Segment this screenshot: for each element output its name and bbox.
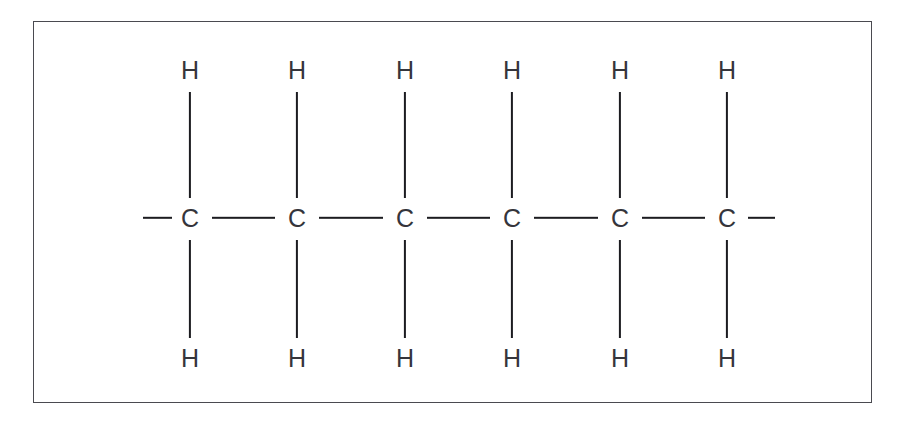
hydrogen-label-top-5: H: [611, 58, 629, 83]
hydrogen-label-top-2: H: [288, 58, 306, 83]
bond-vertical-bottom-3: [404, 240, 406, 338]
left-continuation-bond: [143, 217, 172, 219]
hydrogen-label-top-3: H: [396, 58, 414, 83]
hydrogen-label-bottom-2: H: [288, 346, 306, 371]
bond-vertical-bottom-6: [726, 240, 728, 338]
bond-vertical-top-2: [296, 92, 298, 198]
diagram-canvas: H H H H H H C C C C C C H H H H H H: [0, 0, 902, 423]
hydrogen-label-top-6: H: [718, 58, 736, 83]
bond-vertical-top-4: [511, 92, 513, 198]
bond-carbon-carbon-5: [642, 217, 705, 219]
bond-vertical-top-6: [726, 92, 728, 198]
bond-carbon-carbon-2: [319, 217, 383, 219]
carbon-label-3: C: [396, 206, 414, 231]
hydrogen-label-bottom-6: H: [718, 346, 736, 371]
hydrogen-label-top-1: H: [181, 58, 199, 83]
carbon-label-2: C: [288, 206, 306, 231]
bond-vertical-top-5: [619, 92, 621, 198]
carbon-label-4: C: [503, 206, 521, 231]
right-continuation-bond: [748, 217, 775, 219]
hydrogen-label-bottom-5: H: [611, 346, 629, 371]
bond-carbon-carbon-3: [427, 217, 490, 219]
carbon-label-5: C: [611, 206, 629, 231]
bond-vertical-bottom-1: [189, 240, 191, 338]
bond-vertical-bottom-4: [511, 240, 513, 338]
bond-carbon-carbon-1: [212, 217, 275, 219]
hydrogen-label-bottom-4: H: [503, 346, 521, 371]
carbon-label-1: C: [181, 206, 199, 231]
bond-vertical-top-3: [404, 92, 406, 198]
bond-vertical-bottom-2: [296, 240, 298, 338]
hydrogen-label-bottom-1: H: [181, 346, 199, 371]
carbon-label-6: C: [718, 206, 736, 231]
hydrogen-label-bottom-3: H: [396, 346, 414, 371]
hydrogen-label-top-4: H: [503, 58, 521, 83]
bond-vertical-top-1: [189, 92, 191, 198]
bond-carbon-carbon-4: [534, 217, 598, 219]
bond-vertical-bottom-5: [619, 240, 621, 338]
diagram-frame-border: [33, 21, 872, 403]
